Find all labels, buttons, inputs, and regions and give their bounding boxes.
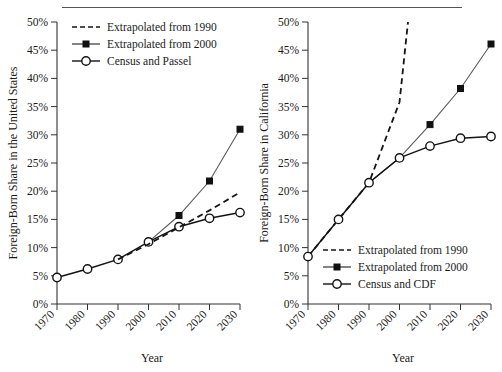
y-tick-label: 30% xyxy=(278,129,300,141)
y-tick-label: 5% xyxy=(33,270,49,282)
figure-container: 50% 45% 40% 35% 30% 25% 20% 15% 10% 5% 0… xyxy=(0,0,502,372)
x-axis-title-right: Year xyxy=(392,351,414,365)
legend-label: Census and CDF xyxy=(358,278,436,290)
data-point-marker xyxy=(427,122,433,128)
data-point-marker xyxy=(395,154,403,162)
x-axis-title-left: Year xyxy=(141,351,163,365)
x-tick-label: 1970 xyxy=(32,308,57,333)
data-point-marker xyxy=(488,41,494,47)
y-tick-label: 35% xyxy=(27,101,49,113)
y-tick-label: 30% xyxy=(27,129,49,141)
y-tick-label: 20% xyxy=(278,185,300,197)
y-tick-label: 15% xyxy=(27,213,49,225)
y-tick-label: 45% xyxy=(27,44,49,56)
data-point-marker xyxy=(83,265,91,273)
data-point-marker xyxy=(365,179,373,187)
legend-item-extrapolated-1990[interactable]: Extrapolated from 1990 xyxy=(72,21,217,34)
y-tick-label: 40% xyxy=(27,72,49,84)
series-extrapolated-2000-right xyxy=(369,41,494,183)
y-tick-label: 15% xyxy=(278,213,300,225)
y-axis-title-left: Foreign-Born Share in the United States xyxy=(6,66,20,259)
data-point-marker xyxy=(207,178,213,184)
legend-item-census-passel[interactable]: Census and Passel xyxy=(72,55,191,67)
legend-item-extrapolated-1990[interactable]: Extrapolated from 1990 xyxy=(323,244,468,257)
data-point-marker xyxy=(205,214,213,222)
y-tick-label: 40% xyxy=(278,72,300,84)
data-point-marker xyxy=(456,134,464,142)
y-tick-label: 20% xyxy=(27,185,49,197)
y-tick-label: 10% xyxy=(278,242,300,254)
data-point-marker xyxy=(237,126,243,132)
x-tick-label: 2000 xyxy=(123,308,148,333)
x-ticks-left xyxy=(57,304,240,310)
legend-left: Extrapolated from 1990 Extrapolated from… xyxy=(72,21,217,67)
y-tick-label: 10% xyxy=(27,242,49,254)
legend-label: Extrapolated from 2000 xyxy=(358,261,468,274)
x-tick-label: 1980 xyxy=(313,308,338,333)
x-tick-label: 2020 xyxy=(435,308,460,333)
y-tick-labels-right: 50% 45% 40% 35% 30% 25% 20% 15% 10% 5% 0… xyxy=(278,16,300,310)
chart-panel-california: 50% 45% 40% 35% 30% 25% 20% 15% 10% 5% 0… xyxy=(251,0,502,372)
data-point-marker xyxy=(176,213,182,219)
data-point-marker xyxy=(458,86,464,92)
x-tick-label: 2030 xyxy=(466,308,491,333)
y-tick-labels-left: 50% 45% 40% 35% 30% 25% 20% 15% 10% 5% 0… xyxy=(27,16,49,310)
x-tick-label: 2010 xyxy=(405,308,430,333)
x-tick-label: 2000 xyxy=(374,308,399,333)
chart-svg-left: 50% 45% 40% 35% 30% 25% 20% 15% 10% 5% 0… xyxy=(0,0,251,372)
y-ticks-left xyxy=(51,22,57,304)
series-census-cdf-right xyxy=(304,132,495,261)
legend-label: Extrapolated from 1990 xyxy=(358,244,468,257)
y-tick-label: 5% xyxy=(284,270,300,282)
legend-swatch-open-circle xyxy=(82,57,90,65)
y-tick-label: 50% xyxy=(278,16,300,28)
data-point-marker xyxy=(53,273,61,281)
y-tick-label: 45% xyxy=(278,44,300,56)
y-tick-label: 25% xyxy=(27,157,49,169)
legend-label: Census and Passel xyxy=(107,55,191,67)
legend-item-extrapolated-2000[interactable]: Extrapolated from 2000 xyxy=(72,38,217,51)
legend-item-census-cdf[interactable]: Census and CDF xyxy=(323,278,436,290)
y-tick-label: 0% xyxy=(33,298,49,310)
legend-label: Extrapolated from 1990 xyxy=(107,21,217,34)
y-tick-label: 35% xyxy=(278,101,300,113)
x-tick-label: 1990 xyxy=(344,308,369,333)
legend-label: Extrapolated from 2000 xyxy=(107,38,217,51)
data-point-marker xyxy=(426,142,434,150)
chart-svg-right: 50% 45% 40% 35% 30% 25% 20% 15% 10% 5% 0… xyxy=(251,0,502,372)
x-tick-label: 1990 xyxy=(93,308,118,333)
y-axis-title-right: Foreign-Born Share in California xyxy=(257,83,271,243)
x-tick-label: 1970 xyxy=(283,308,308,333)
y-tick-label: 50% xyxy=(27,16,49,28)
x-tick-label: 2030 xyxy=(215,308,240,333)
series-extrapolated-1990-right xyxy=(308,22,408,257)
data-point-marker xyxy=(304,252,312,260)
x-tick-labels-left: 1970 1980 1990 2000 2010 2020 2030 xyxy=(32,308,240,333)
legend-swatch-open-circle xyxy=(333,280,341,288)
legend-swatch-filled-square xyxy=(83,41,89,47)
chart-panel-united-states: 50% 45% 40% 35% 30% 25% 20% 15% 10% 5% 0… xyxy=(0,0,251,372)
data-point-marker xyxy=(236,208,244,216)
y-tick-label: 0% xyxy=(284,298,300,310)
x-ticks-right xyxy=(308,304,491,310)
x-tick-label: 1980 xyxy=(62,308,87,333)
data-point-marker xyxy=(487,132,495,140)
series-extrapolated-2000-left xyxy=(146,126,244,245)
y-tick-label: 25% xyxy=(278,157,300,169)
x-tick-label: 2020 xyxy=(184,308,209,333)
legend-swatch-filled-square xyxy=(334,264,340,270)
data-point-marker xyxy=(334,215,342,223)
legend-item-extrapolated-2000[interactable]: Extrapolated from 2000 xyxy=(323,261,468,274)
y-ticks-right xyxy=(302,22,308,304)
x-tick-label: 2010 xyxy=(154,308,179,333)
legend-right: Extrapolated from 1990 Extrapolated from… xyxy=(323,244,468,290)
x-tick-labels-right: 1970 1980 1990 2000 2010 2020 2030 xyxy=(283,308,491,333)
